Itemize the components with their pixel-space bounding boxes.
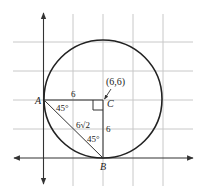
angle-label-b: 45° — [87, 134, 100, 144]
point-label-b: B — [100, 161, 106, 172]
segment-label-cb: 6 — [106, 124, 111, 134]
point-label-a: A — [34, 95, 42, 106]
center-coordinate-label: (6,6) — [106, 76, 125, 88]
segment-label-ac: 6 — [71, 89, 76, 99]
circle-diagram: (6,6) C A B 6 6 6√2 45° 45° — [0, 0, 204, 194]
point-label-c: C — [107, 98, 114, 109]
segment-label-ab: 6√2 — [76, 120, 90, 130]
right-angle-marker — [93, 100, 103, 110]
angle-label-a: 45° — [56, 103, 69, 113]
